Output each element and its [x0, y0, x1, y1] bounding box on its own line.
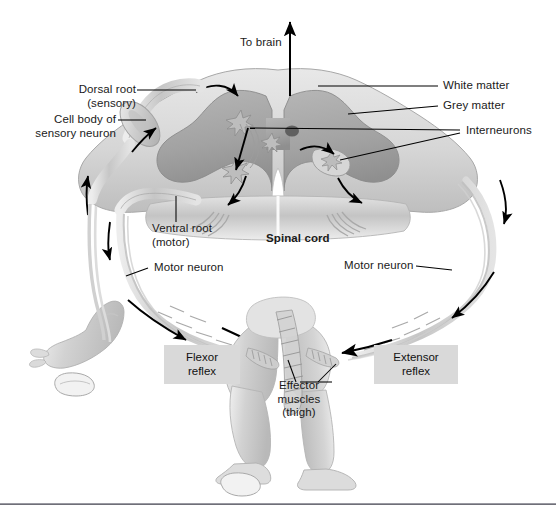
reflex-arc-figure: To brain Dorsal root (sensory) Cell body… — [0, 0, 556, 514]
bottom-rule — [0, 503, 556, 505]
label-grey-matter: Grey matter — [443, 99, 505, 113]
left-leg-flexed — [29, 204, 124, 396]
label-dorsal-root: Dorsal root (sensory) — [0, 83, 136, 110]
central-canal — [285, 126, 299, 137]
ventral-root-efferent-arrow — [108, 222, 110, 260]
leader-motor-neuron-right — [416, 266, 452, 270]
label-ventral-root: Ventral root (motor) — [152, 222, 212, 249]
reflex-arc-illustration — [0, 0, 556, 514]
spinal-cord-cross-section — [79, 69, 478, 240]
label-spinal-cord: Spinal cord — [266, 232, 330, 246]
label-interneurons: Interneurons — [466, 124, 532, 138]
label-effector-muscles: Effector muscles (thigh) — [268, 379, 330, 420]
right-foot — [297, 469, 356, 490]
label-extensor-reflex: Extensor reflex — [374, 345, 458, 384]
label-flexor-reflex: Flexor reflex — [164, 345, 240, 384]
label-motor-neuron-right: Motor neuron — [344, 259, 414, 273]
label-white-matter: White matter — [443, 79, 509, 93]
descending-arrow-right — [500, 180, 506, 224]
left-shin — [230, 386, 271, 468]
left-shoe — [55, 373, 95, 396]
label-to-brain: To brain — [240, 36, 282, 50]
label-motor-neuron-left: Motor neuron — [154, 261, 224, 275]
label-cell-body-sensory-neuron: Cell body of sensory neuron — [0, 113, 116, 140]
